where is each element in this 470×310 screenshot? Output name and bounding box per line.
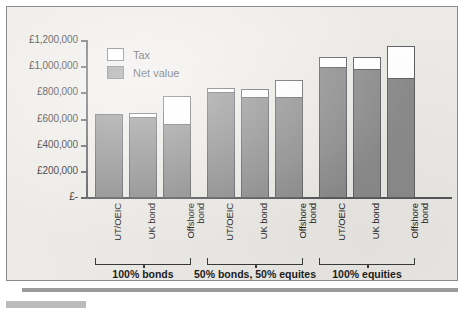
- legend-item-tax: Tax: [107, 48, 179, 61]
- bar-column: [241, 89, 269, 198]
- bar-segment-tax: [275, 80, 303, 97]
- bar-segment-tax: [319, 57, 347, 67]
- bar-segment-net-value: [275, 97, 303, 198]
- category-axis-label: UK bond: [371, 203, 381, 263]
- category-axis-label: Offshore bond: [186, 203, 206, 259]
- gray-swatch-icon: [107, 66, 124, 79]
- bar-column: [163, 96, 191, 198]
- chart-plot-area: £1,200,000£1,000,000£800,000£600,000£400…: [7, 7, 459, 282]
- bar-column: [387, 46, 415, 198]
- bar-segment-net-value: [95, 114, 123, 198]
- bar-column: [275, 80, 303, 198]
- legend-label-tax: Tax: [133, 49, 150, 61]
- bar-column: [207, 88, 235, 198]
- bar-segment-tax: [353, 57, 381, 69]
- white-swatch-icon: [107, 48, 124, 61]
- bar-column: [129, 113, 157, 198]
- bar-segment-net-value: [207, 92, 235, 198]
- category-axis-label: Offshore bond: [410, 203, 430, 259]
- bar-segment-tax: [241, 89, 269, 97]
- bar-segment-tax: [163, 96, 191, 124]
- figure-bottom-rule: [22, 288, 458, 292]
- category-axis-label: Offshore bond: [298, 203, 318, 259]
- bar-column: [95, 114, 123, 198]
- chart-figure-frame: £1,200,000£1,000,000£800,000£600,000£400…: [6, 6, 458, 281]
- bar-column: [353, 57, 381, 198]
- group-label: 100% equities: [279, 268, 455, 280]
- bar-segment-net-value: [163, 124, 191, 198]
- category-axis-label: UK bond: [259, 203, 269, 263]
- category-axis-label: UK bond: [147, 203, 157, 263]
- bar-segment-net-value: [319, 67, 347, 198]
- category-axis-label: UT/OEIC: [337, 203, 347, 263]
- category-axis-label: UT/OEIC: [113, 203, 123, 263]
- bar-segment-tax: [387, 46, 415, 77]
- bar-column: [319, 57, 347, 198]
- legend-label-net-value: Net value: [133, 67, 179, 79]
- figure-corner-tab: [6, 301, 86, 308]
- chart-legend: Tax Net value: [107, 48, 179, 84]
- legend-item-net-value: Net value: [107, 66, 179, 79]
- category-axis-label: UT/OEIC: [225, 203, 235, 263]
- bar-segment-net-value: [241, 97, 269, 198]
- bar-segment-net-value: [129, 117, 157, 198]
- bar-segment-net-value: [387, 78, 415, 198]
- bar-segment-net-value: [353, 69, 381, 198]
